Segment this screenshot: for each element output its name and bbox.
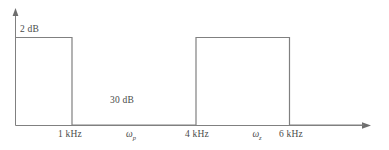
stopband-level-label: 30 dB: [110, 96, 134, 106]
omega-p-glyph: ω: [126, 129, 133, 139]
omega-p-subscript: p: [133, 134, 136, 141]
specification-mask-trace: [16, 38, 365, 126]
filter-specification-figure: 2 dB 30 dB 1 kHz 4 kHz 6 kHz ωp ωz: [0, 0, 389, 150]
filter-mask-plot: [0, 0, 389, 150]
omega-p-label: ωp: [126, 130, 136, 141]
y-axis: [13, 8, 19, 126]
omega-z-label: ωz: [252, 130, 261, 141]
x-tick-label-6khz: 6 kHz: [279, 130, 303, 140]
x-tick-label-1khz: 1 kHz: [58, 130, 82, 140]
passband-level-label: 2 dB: [20, 25, 39, 35]
x-tick-label-4khz: 4 kHz: [185, 130, 209, 140]
omega-z-subscript: z: [259, 134, 262, 141]
omega-z-glyph: ω: [252, 129, 259, 139]
